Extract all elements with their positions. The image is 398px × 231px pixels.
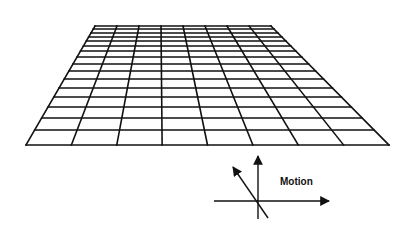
grid-column-line [117, 26, 139, 145]
motion-label: Motion [280, 176, 313, 187]
grid-column-line [71, 26, 117, 145]
grid-column-line [26, 26, 95, 145]
grid-column-line [183, 26, 208, 145]
grid-column-line [161, 26, 162, 145]
diagonal-motion-arrow [233, 167, 268, 218]
perspective-grid-figure: Motion [0, 0, 398, 231]
perspective-grid-plane [26, 26, 389, 145]
motion-diagram [214, 156, 329, 219]
grid-column-line [205, 26, 253, 145]
